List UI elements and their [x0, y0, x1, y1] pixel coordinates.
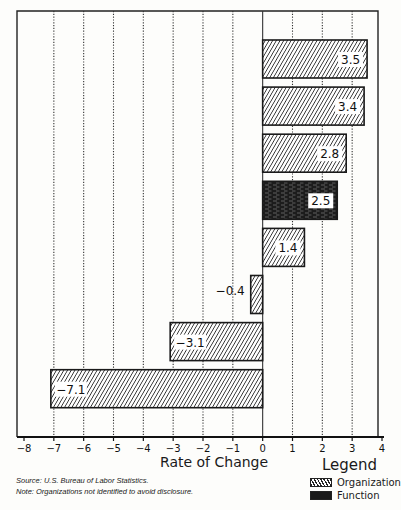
x-tick-label: −7: [46, 443, 61, 454]
x-tick-label: 4: [379, 443, 385, 454]
bar-value-label: 2.5: [311, 194, 330, 208]
legend-title: Legend: [322, 456, 377, 474]
bar-value-label: −3.1: [176, 336, 205, 350]
x-tick-label: 2: [319, 443, 325, 454]
legend-item-organization: Organization: [310, 477, 401, 488]
x-tick-label: −1: [225, 443, 240, 454]
legend-item-function: Function: [310, 490, 380, 501]
bar-value-label: 3.4: [338, 100, 357, 114]
x-tick-label: −8: [17, 443, 32, 454]
bar-value-label: −0.4: [216, 284, 245, 298]
hatch-swatch-icon: [310, 478, 332, 487]
bar-value-label: 3.5: [341, 53, 360, 67]
x-tick-label: 1: [289, 443, 295, 454]
source-note: Source: U.S. Bureau of Labor Statistics.: [16, 476, 149, 485]
x-tick-label: 3: [349, 443, 355, 454]
bar-value-label: 2.8: [320, 147, 339, 161]
legend-label-function: Function: [337, 490, 380, 501]
solid-swatch-icon: [310, 491, 332, 500]
x-tick-label: −4: [136, 443, 151, 454]
x-tick-label: −2: [196, 443, 211, 454]
bar-value-label: −7.1: [56, 383, 85, 397]
bar-value-label: 1.4: [278, 241, 297, 255]
x-tick-label: −5: [106, 443, 121, 454]
x-tick-label: −3: [166, 443, 181, 454]
x-tick-label: 0: [259, 443, 265, 454]
bar-organization: [251, 276, 263, 314]
legend-label-organization: Organization: [337, 477, 401, 488]
disclosure-note: Note: Organizations not identified to av…: [16, 487, 193, 496]
x-tick-label: −6: [76, 443, 91, 454]
